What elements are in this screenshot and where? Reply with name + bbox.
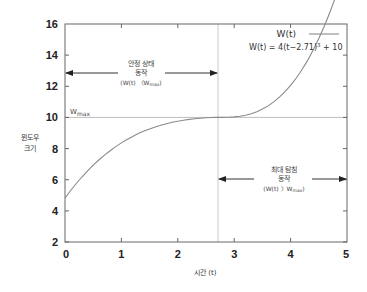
steady-label-line2: 동작 (135, 68, 148, 77)
x-axis-ticks (121, 24, 290, 242)
y-tick-14: 14 (46, 49, 59, 61)
y-tick-6: 6 (52, 174, 58, 186)
probe-label-line2: 동작 (278, 174, 291, 183)
x-tick-labels: 0 1 2 3 4 5 (63, 248, 349, 260)
x-tick-1: 1 (118, 248, 124, 260)
legend-series-name: W(t) (277, 29, 296, 39)
y-tick-10: 10 (46, 111, 58, 123)
probe-label-line1: 최대 탐침 (271, 165, 297, 174)
y-axis-title-line1: 윈도우 (21, 133, 40, 142)
legend: W(t) W(t) = 4(t−2.71)3 + 10 (249, 29, 343, 52)
y-tick-4: 4 (52, 205, 59, 217)
y-tick-2: 2 (52, 236, 58, 248)
x-tick-0: 0 (63, 248, 69, 260)
wt-curve (65, 0, 341, 198)
wmax-label: Wmax (70, 108, 90, 117)
y-axis-ticks (65, 55, 347, 242)
x-tick-5: 5 (343, 248, 349, 260)
x-tick-3: 3 (231, 248, 237, 260)
y-tick-8: 8 (52, 143, 58, 155)
plot-frame (65, 24, 347, 242)
y-tick-16: 16 (46, 18, 58, 30)
legend-equation: W(t) = 4(t−2.71)3 + 10 (249, 42, 343, 52)
y-tick-labels: 2 4 6 8 10 12 14 16 (46, 18, 59, 248)
x-axis-title: 시간 (t) (194, 268, 217, 277)
chart: 2 4 6 8 10 12 14 16 0 1 2 3 4 5 시간 (t) 윈… (0, 0, 367, 292)
y-tick-12: 12 (46, 80, 58, 92)
x-tick-2: 2 (175, 248, 181, 260)
steady-label-line3: (W(t) 〈Wmax) (120, 79, 161, 87)
steady-label-line1: 안정 상태 (128, 59, 154, 68)
probe-label-line3: (W(t) 〉Wmax) (263, 185, 304, 193)
x-tick-4: 4 (288, 248, 295, 260)
y-axis-title-line2: 크기 (24, 144, 36, 153)
